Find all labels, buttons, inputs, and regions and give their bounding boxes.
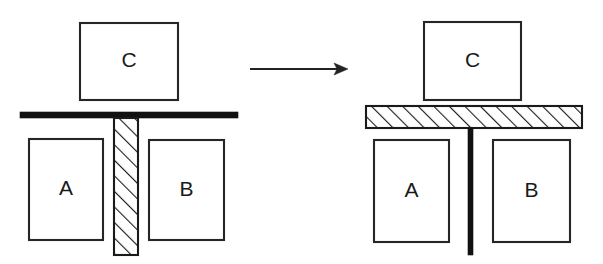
right-beam-hatched xyxy=(366,106,582,128)
transition-arrow xyxy=(250,63,348,75)
left-block-a-label: A xyxy=(59,176,73,199)
right-block-c: C xyxy=(424,22,521,100)
right-block-c-label: C xyxy=(465,48,480,71)
diagram-root: C A B xyxy=(0,0,603,264)
left-block-c-label: C xyxy=(121,48,136,71)
right-block-a: A xyxy=(374,140,449,242)
right-post-solid xyxy=(468,128,473,255)
left-post-hatched xyxy=(114,118,138,255)
right-block-b: B xyxy=(493,140,570,242)
left-block-b-label: B xyxy=(179,177,193,200)
right-beam-hatched-rect xyxy=(366,106,582,128)
left-panel: C A B xyxy=(20,23,238,255)
left-block-a: A xyxy=(29,139,103,240)
right-panel: C A B xyxy=(366,22,582,255)
left-block-b: B xyxy=(149,140,224,240)
left-post-hatched-rect xyxy=(114,118,138,255)
right-block-a-label: A xyxy=(404,178,418,201)
diagram-canvas: C A B xyxy=(0,0,603,264)
left-block-c: C xyxy=(80,23,178,100)
right-block-b-label: B xyxy=(524,178,538,201)
